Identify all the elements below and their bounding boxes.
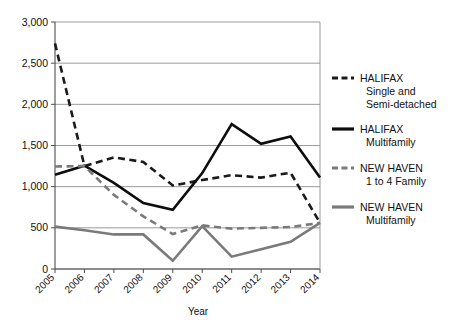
legend-label-3-line-0: NEW HAVEN (360, 201, 423, 213)
legend-label-0-line-2: Semi-detached (366, 98, 437, 110)
y-tick-label: 3,000 (22, 16, 48, 28)
legend-label-3-line-1: Multifamily (366, 214, 416, 226)
y-tick-label: 1,500 (22, 139, 48, 151)
y-tick-label: 2,500 (22, 57, 48, 69)
legend-label-0-line-0: HALIFAX (360, 72, 403, 84)
x-axis-title: Year (188, 306, 209, 317)
line-chart-figure: 05001,0001,5002,0002,5003,000 2005200620… (0, 0, 452, 331)
y-tick-label: 2,000 (22, 98, 48, 110)
legend-label-2-line-1: 1 to 4 Family (366, 175, 427, 187)
y-tick-label: 1,000 (22, 180, 48, 192)
legend-label-2-line-0: NEW HAVEN (360, 162, 423, 174)
y-tick-label: 500 (30, 221, 48, 233)
legend-label-1-line-1: Multifamily (366, 136, 416, 148)
legend-label-0-line-1: Single and (366, 85, 416, 97)
legend-label-1-line-0: HALIFAX (360, 123, 403, 135)
